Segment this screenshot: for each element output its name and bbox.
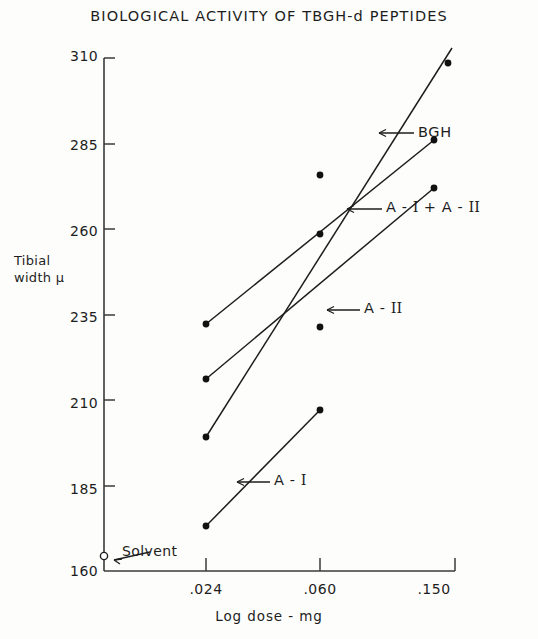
data-point-a1a2-024 xyxy=(203,321,210,328)
data-point-a1-024 xyxy=(203,523,210,530)
data-point-bgh-060 xyxy=(317,172,324,179)
data-point-a2-060 xyxy=(317,324,324,331)
data-point-a1a2-150 xyxy=(431,137,438,144)
chart-figure: BIOLOGICAL ACTIVITY OF TBGH-d PEPTIDES T… xyxy=(0,0,538,639)
data-point-bgh-150 xyxy=(445,60,452,67)
series-line-bgh xyxy=(206,48,452,437)
annotation-arrows xyxy=(114,130,414,565)
data-point-bgh-024 xyxy=(203,434,210,441)
plot-area xyxy=(0,0,538,639)
data-point-a1a2-060 xyxy=(317,231,324,238)
x-axis-ticks xyxy=(206,558,455,571)
data-point-a2-150 xyxy=(431,185,438,192)
solvent-marker xyxy=(100,552,107,559)
series-line-a1 xyxy=(206,410,320,526)
y-axis-ticks xyxy=(104,58,115,486)
data-point-markers xyxy=(203,60,452,530)
data-point-a1-060 xyxy=(317,407,324,414)
data-point-a2-024 xyxy=(203,376,210,383)
axis-lines xyxy=(104,58,455,571)
series-line-a2 xyxy=(206,188,434,379)
